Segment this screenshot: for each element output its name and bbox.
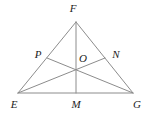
point-label-m: M (71, 99, 80, 110)
segment-gp (47, 58, 133, 93)
point-label-p: P (35, 49, 42, 60)
geometry-figure: FEGMPNO (0, 0, 146, 113)
point-label-e: E (11, 99, 18, 110)
point-label-f: F (70, 3, 77, 14)
geometry-canvas (0, 0, 146, 113)
point-label-g: G (133, 99, 141, 110)
point-label-o: O (79, 53, 87, 64)
segment-en (18, 58, 105, 93)
point-label-n: N (112, 49, 119, 60)
